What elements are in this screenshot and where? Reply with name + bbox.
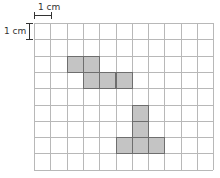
shape-bottom-cell [132,105,149,122]
grid-line-vertical [50,23,51,170]
grid-line-horizontal [34,105,213,106]
shape-top-cell [99,72,116,89]
grid-line-vertical [34,23,35,170]
grid-line-horizontal [34,23,213,24]
grid-line-vertical [67,23,68,170]
shape-bottom-cell [132,121,149,138]
shape-bottom-cell [116,137,133,154]
grid-line-horizontal [34,39,213,40]
shape-top-cell [83,72,100,89]
grid-line-vertical [197,23,198,170]
square-grid [34,23,213,170]
shape-top-cell [67,56,84,73]
shape-bottom-cell [132,137,149,154]
grid-line-vertical [181,23,182,170]
grid-line-horizontal [34,170,213,171]
scale-label-horizontal: 1 cm [38,2,60,12]
shape-top-cell [83,56,100,73]
scale-label-vertical: 1 cm [4,26,26,36]
shape-bottom-cell [148,137,165,154]
shape-top-cell [116,72,133,89]
grid-line-vertical [213,23,214,170]
grid-line-vertical [83,23,84,170]
grid-line-horizontal [34,56,213,57]
grid-line-horizontal [34,121,213,122]
grid-line-vertical [99,23,100,170]
